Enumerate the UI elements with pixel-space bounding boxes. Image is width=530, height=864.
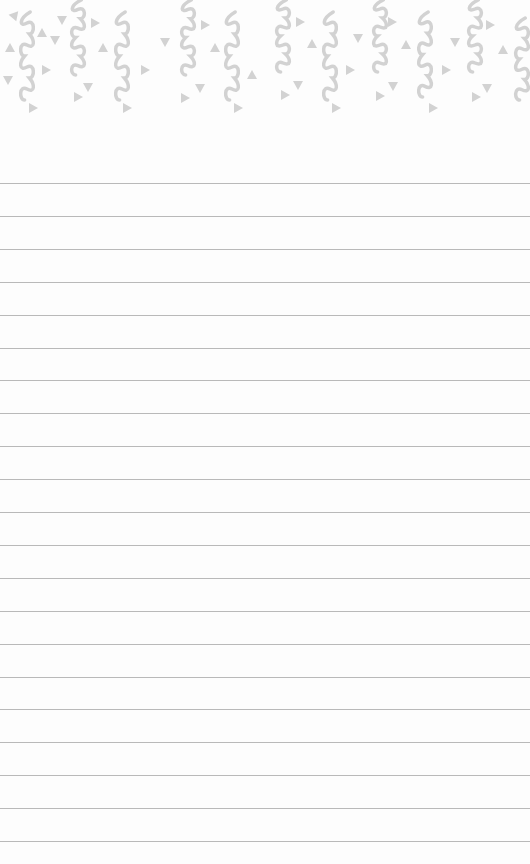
ruled-line [0,512,530,513]
ruled-line [0,808,530,809]
ruled-line [0,446,530,447]
ruled-line [0,578,530,579]
ruled-line [0,677,530,678]
ruled-lines [0,0,530,864]
ruled-line [0,742,530,743]
ruled-line [0,709,530,710]
ruled-line [0,841,530,842]
ruled-line [0,282,530,283]
ruled-line [0,348,530,349]
ruled-line [0,413,530,414]
ruled-line [0,611,530,612]
ruled-line [0,479,530,480]
ruled-line [0,183,530,184]
ruled-line [0,216,530,217]
ruled-line [0,380,530,381]
ruled-line [0,775,530,776]
ruled-line [0,249,530,250]
ruled-line [0,545,530,546]
ruled-line [0,644,530,645]
ruled-line [0,315,530,316]
